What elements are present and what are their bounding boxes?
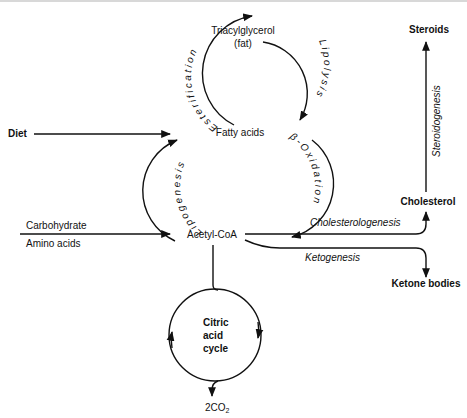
- acetyl-to-citric-line: [213, 245, 218, 290]
- diet-label: Diet: [8, 128, 28, 139]
- cycle-label: cycle: [203, 343, 228, 354]
- steroids-label: Steroids: [409, 24, 449, 35]
- lipolysis-arrow: [263, 42, 307, 120]
- ketone-bodies-label: Ketone bodies: [392, 278, 461, 289]
- citric-label: Citric: [203, 317, 229, 328]
- carbohydrate-label: Carbohydrate: [26, 220, 87, 231]
- cholesterol-label: Cholesterol: [400, 196, 455, 207]
- ketogenesis-label: Ketogenesis: [305, 252, 360, 263]
- citric-cycle-arrow-right: [258, 322, 259, 338]
- steroidogenesis-label: Steroidogenesis: [431, 85, 442, 157]
- metabolism-diagram: Triacylglycerol (fat) Fatty acids Acetyl…: [0, 0, 467, 418]
- co2-label: 2CO2: [205, 402, 230, 414]
- esterification-label: Esterification: [182, 45, 219, 134]
- beta-oxidation-label: β-Oxidation: [287, 130, 324, 207]
- triacylglycerol-label: Triacylglycerol: [211, 25, 275, 36]
- co2-arrow: [212, 381, 218, 396]
- lipolysis-label: Lipolysis: [313, 38, 333, 101]
- lipogenesis-label: Lipogenesis: [171, 158, 203, 238]
- amino-acids-label: Amino acids: [26, 238, 80, 249]
- diagram-canvas: Triacylglycerol (fat) Fatty acids Acetyl…: [0, 2, 467, 418]
- citric-cycle-arrow-left: [171, 332, 172, 348]
- acid-label: acid: [203, 330, 223, 341]
- fatty-acids-label: Fatty acids: [216, 127, 264, 138]
- cholesterologenesis-label: Cholesterologenesis: [310, 217, 401, 228]
- fat-label: (fat): [234, 38, 252, 49]
